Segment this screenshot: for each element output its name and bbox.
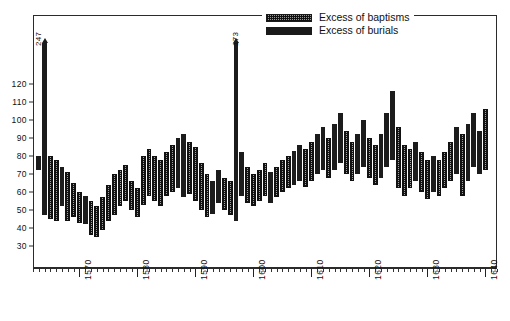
bar-baptisms-1629 <box>419 152 424 192</box>
x-tick-minor <box>491 269 492 272</box>
x-tick-minor <box>456 269 457 272</box>
x-tick-minor <box>149 269 150 272</box>
bar-baptisms-1630 <box>425 160 430 200</box>
x-tick-minor <box>236 269 237 272</box>
y-tick-label: 110 <box>12 98 27 106</box>
x-tick-minor <box>68 269 69 272</box>
x-tick-minor <box>271 269 272 272</box>
x-tick-minor <box>161 269 162 272</box>
x-tick-minor <box>404 269 405 272</box>
y-tick-label: 40 <box>17 224 27 232</box>
x-tick-minor <box>178 269 179 272</box>
x-tick-major <box>369 269 370 277</box>
x-tick-minor <box>45 269 46 272</box>
x-tick-minor <box>213 269 214 272</box>
x-tick-minor <box>265 269 266 272</box>
bar-burials-1567 <box>60 167 65 207</box>
bar-baptisms-1606 <box>286 156 291 188</box>
bar-baptisms-1616 <box>344 131 349 174</box>
bar-burials-1637 <box>466 124 471 182</box>
x-tick-major <box>195 269 196 277</box>
bar-burials-1628 <box>413 142 418 182</box>
bar-baptisms-1578 <box>123 165 128 201</box>
bar-burials-1587 <box>176 138 181 188</box>
bar-burials-1619 <box>361 120 366 167</box>
x-tick-minor <box>132 269 133 272</box>
x-tick-minor <box>358 269 359 272</box>
bar-baptisms-1582 <box>147 149 152 196</box>
bar-baptisms-1592 <box>205 174 210 217</box>
x-tick-major <box>485 269 486 277</box>
legend-item-baptisms: Excess of baptisms <box>266 12 409 23</box>
x-tick-minor <box>74 269 75 272</box>
bar-baptisms-1581 <box>141 156 146 205</box>
bar-baptisms-1602 <box>263 163 268 195</box>
x-tick-minor <box>56 269 57 272</box>
bar-baptisms-1595 <box>222 178 227 210</box>
bar-burials-1631 <box>431 156 436 192</box>
x-tick-minor <box>207 269 208 272</box>
x-tick-minor <box>62 269 63 272</box>
y-tick-label: 100 <box>12 116 27 124</box>
bar-burials-1614 <box>332 124 337 171</box>
y-axis: 30405060708090100110120 <box>0 0 33 321</box>
x-tick-minor <box>346 269 347 272</box>
bar-burials-1563 <box>36 156 41 170</box>
y-tick-label: 70 <box>17 170 27 178</box>
x-tick-minor <box>288 269 289 272</box>
bar-baptisms-1573 <box>94 206 99 237</box>
x-tick-minor <box>416 269 417 272</box>
x-tick-minor <box>120 269 121 272</box>
bar-baptisms-1576 <box>112 174 117 215</box>
bar-baptisms-1600 <box>251 174 256 206</box>
bar-burials-1638 <box>471 113 476 167</box>
bar-baptisms-1601 <box>257 170 262 201</box>
bar-baptisms-1569 <box>71 183 76 217</box>
x-tick-minor <box>422 269 423 272</box>
chart-legend: Excess of baptisms Excess of burials <box>262 9 414 39</box>
bar-baptisms-1621 <box>373 145 378 185</box>
x-tick-minor <box>166 269 167 272</box>
x-tick-minor <box>143 269 144 272</box>
y-tick-mark <box>29 192 34 193</box>
bar-burials-1564 <box>42 43 47 215</box>
bar-burials-1607 <box>292 151 297 185</box>
bar-baptisms-1627 <box>408 149 413 189</box>
x-tick-minor <box>248 269 249 272</box>
bar-baptisms-1625 <box>396 127 401 188</box>
bar-burials-1618 <box>355 134 360 174</box>
bar-baptisms-1599 <box>245 167 250 203</box>
bar-burials-1624 <box>390 91 395 159</box>
x-tick-minor <box>294 269 295 272</box>
bar-baptisms-1577 <box>118 170 123 206</box>
bar-baptisms-1589 <box>187 142 192 194</box>
x-tick-minor <box>108 269 109 272</box>
x-tick-minor <box>282 269 283 272</box>
bar-burials-1598 <box>239 152 244 195</box>
bar-baptisms-1566 <box>54 160 59 221</box>
y-tick-mark <box>29 228 34 229</box>
x-tick-minor <box>381 269 382 272</box>
bar-baptisms-1570 <box>77 192 82 223</box>
x-tick-minor <box>497 269 498 272</box>
bar-baptisms-1591 <box>199 163 204 210</box>
x-tick-minor <box>340 269 341 272</box>
x-tick-minor <box>317 269 318 272</box>
bar-burials-1635 <box>454 127 459 174</box>
x-tick-minor <box>91 269 92 272</box>
bar-baptisms-1580 <box>135 188 140 217</box>
x-tick-minor <box>50 269 51 272</box>
bar-baptisms-1565 <box>48 156 53 219</box>
x-tick-minor <box>242 269 243 272</box>
x-tick-minor <box>474 269 475 272</box>
plot-area <box>33 15 497 268</box>
x-tick-minor <box>439 269 440 272</box>
bar-burials-1623 <box>384 113 389 167</box>
x-tick-minor <box>445 269 446 272</box>
x-tick-minor <box>323 269 324 272</box>
bar-baptisms-1575 <box>106 185 111 221</box>
bar-burials-1603 <box>268 172 273 203</box>
legend-label-baptisms: Excess of baptisms <box>319 12 409 23</box>
bar-baptisms-1626 <box>402 145 407 195</box>
bar-burials-1588 <box>181 134 186 197</box>
